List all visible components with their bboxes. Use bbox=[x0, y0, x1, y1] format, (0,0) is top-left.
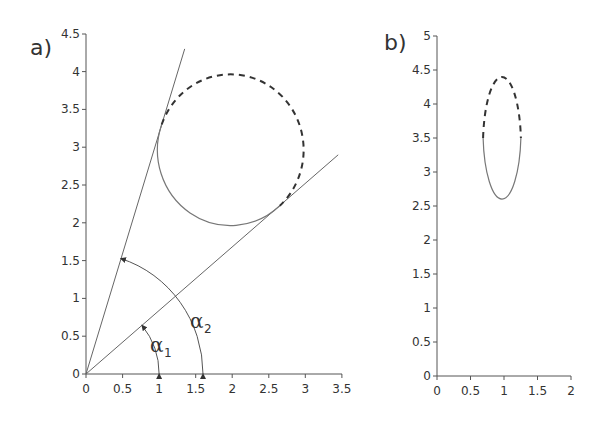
svg-text:5: 5 bbox=[423, 29, 431, 43]
alpha2-label: α 2 bbox=[190, 309, 212, 336]
svg-text:2.5: 2.5 bbox=[61, 178, 80, 192]
svg-text:0.5: 0.5 bbox=[412, 335, 431, 349]
panel-a-y-ticks bbox=[82, 34, 86, 374]
ellipse-dashed-arc bbox=[483, 77, 521, 138]
tangent-line-1 bbox=[86, 49, 185, 374]
svg-text:1: 1 bbox=[164, 346, 172, 360]
panel-a-y-tick-labels: 0 0.5 1 1.5 2 2.5 3 3.5 4 4.5 bbox=[61, 27, 80, 381]
ellipse-solid-arc bbox=[483, 138, 521, 199]
panel-b: b) 0 0.5 1 1.5 2 2.5 3 3.5 4 4. bbox=[384, 29, 575, 398]
svg-text:1: 1 bbox=[72, 291, 80, 305]
svg-text:2: 2 bbox=[72, 216, 80, 230]
circle-dashed-arc bbox=[162, 74, 304, 205]
alpha1-label: α 1 bbox=[150, 333, 172, 360]
panel-a-x-ticks bbox=[86, 374, 342, 378]
panel-b-y-tick-labels: 0 0.5 1 1.5 2 2.5 3 3.5 4 4.5 5 bbox=[412, 29, 431, 383]
svg-text:2: 2 bbox=[204, 322, 212, 336]
svg-text:2: 2 bbox=[228, 382, 236, 396]
panel-a: a) 0 0.5 1 1.5 2 2.5 3 3.5 4 4.5 bbox=[30, 27, 351, 396]
circle-solid-arc bbox=[157, 125, 279, 226]
svg-text:4.5: 4.5 bbox=[61, 27, 80, 41]
svg-text:3.5: 3.5 bbox=[332, 382, 351, 396]
svg-text:3: 3 bbox=[301, 382, 309, 396]
svg-text:2: 2 bbox=[567, 384, 575, 398]
svg-text:0.5: 0.5 bbox=[61, 329, 80, 343]
svg-text:3: 3 bbox=[72, 140, 80, 154]
figure: a) 0 0.5 1 1.5 2 2.5 3 3.5 4 4.5 bbox=[0, 0, 602, 422]
panel-a-label: a) bbox=[30, 35, 52, 60]
svg-text:1: 1 bbox=[423, 301, 431, 315]
svg-text:0: 0 bbox=[433, 384, 441, 398]
svg-text:1.5: 1.5 bbox=[412, 267, 431, 281]
svg-text:1: 1 bbox=[155, 382, 163, 396]
svg-text:0: 0 bbox=[82, 382, 90, 396]
svg-text:3.5: 3.5 bbox=[412, 131, 431, 145]
panel-b-x-ticks bbox=[437, 376, 571, 380]
panel-b-label: b) bbox=[384, 30, 407, 55]
svg-text:0.5: 0.5 bbox=[461, 384, 480, 398]
svg-text:0.5: 0.5 bbox=[113, 382, 132, 396]
svg-text:1.5: 1.5 bbox=[61, 254, 80, 268]
svg-text:3: 3 bbox=[423, 165, 431, 179]
svg-text:1.5: 1.5 bbox=[186, 382, 205, 396]
tangent-line-2 bbox=[86, 155, 338, 374]
svg-text:1: 1 bbox=[500, 384, 508, 398]
svg-text:4: 4 bbox=[72, 65, 80, 79]
svg-text:4: 4 bbox=[423, 97, 431, 111]
svg-text:α: α bbox=[190, 309, 204, 333]
svg-text:α: α bbox=[150, 333, 164, 357]
svg-text:0: 0 bbox=[72, 367, 80, 381]
svg-text:2.5: 2.5 bbox=[412, 199, 431, 213]
svg-text:2.5: 2.5 bbox=[259, 382, 278, 396]
svg-text:4.5: 4.5 bbox=[412, 63, 431, 77]
svg-text:0: 0 bbox=[423, 369, 431, 383]
panel-b-x-tick-labels: 0 0.5 1 1.5 2 bbox=[433, 384, 575, 398]
svg-text:2: 2 bbox=[423, 233, 431, 247]
svg-text:1.5: 1.5 bbox=[528, 384, 547, 398]
panel-a-x-tick-labels: 0 0.5 1 1.5 2 2.5 3 3.5 bbox=[82, 382, 351, 396]
panel-b-y-ticks bbox=[433, 36, 437, 376]
svg-text:3.5: 3.5 bbox=[61, 102, 80, 116]
